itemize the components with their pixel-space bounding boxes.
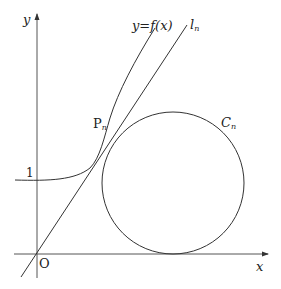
y-tick-1-label: 1: [26, 166, 34, 180]
tangent-line-label: ln: [190, 17, 199, 33]
tangent-line-ln: [21, 25, 187, 277]
circle-cn: [102, 112, 244, 254]
x-axis-label: x: [256, 259, 264, 274]
curve-fx: [15, 28, 155, 180]
curve-label: y=f(x): [131, 18, 173, 33]
diagram: y x O 1 y=f(x) ln Pn Cn: [0, 0, 281, 289]
circle-cn-label: Cn: [221, 115, 236, 131]
point-pn-label: Pn: [93, 116, 107, 132]
origin-label: O: [39, 256, 50, 271]
y-axis-label: y: [22, 12, 31, 27]
